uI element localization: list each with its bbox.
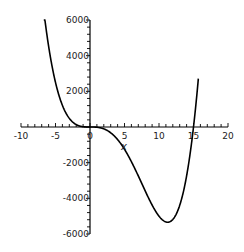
y-tick-label: 6000 [66,15,89,25]
x-tick-label: 20 [222,131,234,141]
y-tick-label: 4000 [66,51,89,61]
y-tick-label: -6000 [63,229,89,239]
x-tick-label: -5 [51,131,60,141]
x-tick-label: 5 [122,131,128,141]
x-tick-label: 10 [153,131,165,141]
function-plot: -10-505101520-6000-4000-2000200040006000… [0,0,244,252]
y-tick-label: -2000 [63,158,89,168]
x-tick-label: -10 [14,131,29,141]
x-axis-label: x [120,141,127,152]
y-tick-label: 2000 [66,86,89,96]
x-tick-label: 0 [87,131,93,141]
y-tick-label: -4000 [63,193,89,203]
